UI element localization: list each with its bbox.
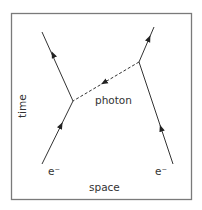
electron-left-out-line [42,32,73,101]
time-axis-label: time [16,94,28,118]
photon-label: photon [95,94,132,106]
electron-right-out-line [139,27,154,62]
electron-right-in-line [139,62,173,164]
space-axis-label: space [89,181,120,193]
electron-left-label: e⁻ [48,165,60,177]
electron-right-label: e⁻ [155,165,167,177]
feynman-diagram: photon e⁻ e⁻ time space [0,0,202,210]
